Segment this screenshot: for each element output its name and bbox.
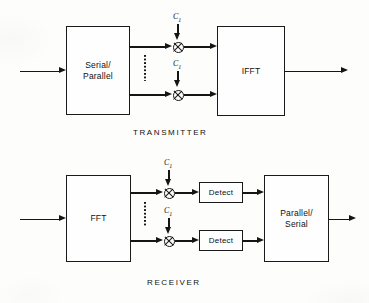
block-ifft[interactable]: IFFT [217,26,285,116]
block-fft-label: FFT [90,213,106,224]
tx-bottom-coefficient-arrow [174,80,180,87]
rx-bottom-branch-wire [131,240,158,241]
tx-bottom-multiplier[interactable] [173,90,184,101]
block-detect-top[interactable]: Detect [199,182,243,203]
tx-bottom-branch-wire [130,94,166,95]
tx-top-coefficient-label: C1 [173,12,181,23]
rx-bottom-multiplier[interactable] [164,236,175,247]
rx-top-branch-arrow [156,189,163,195]
tx-top-branch-wire [130,46,166,47]
block-detect-bottom[interactable]: Detect [199,230,243,251]
tx-top-to-ifft-arrow [210,43,217,49]
tx-top-to-ifft-wire [184,46,212,47]
tx-bottom-coefficient-label: C1 [173,59,181,70]
rx-top-branch-wire [131,192,158,193]
rx-top-multiplier[interactable] [164,188,175,199]
rx-input-wire [20,219,60,220]
tx-branch-ellipsis [144,55,146,81]
rx-bottom-coefficient-arrow [165,227,171,234]
rx-input-arrow [59,215,66,221]
block-detect-bottom-label: Detect [209,236,233,246]
receiver-section-label: RECEIVER [147,278,201,287]
rx-bottom-branch-arrow [156,237,163,243]
rx-output-arrow [349,215,356,221]
rx-top-detect-to-ps-arrow [257,189,264,195]
block-fft[interactable]: FFT [66,175,131,262]
block-parallel-serial[interactable]: Parallel/ Serial [264,175,329,262]
tx-bottom-to-ifft-arrow [210,91,217,97]
rx-bottom-coefficient-sub: 1 [169,211,172,217]
tx-bottom-branch-arrow [165,91,172,97]
tx-top-branch-arrow [165,43,172,49]
tx-input-wire [20,71,60,72]
tx-output-arrow [341,67,348,73]
tx-bottom-coefficient-sub: 1 [178,64,181,70]
block-serial-parallel[interactable]: Serial/ Parallel [66,26,130,115]
block-ifft-label: IFFT [242,66,261,77]
transmitter-section-label: TRANSMITTER [133,128,208,137]
tx-output-wire [285,71,343,72]
tx-bottom-to-ifft-wire [184,94,212,95]
block-serial-parallel-label: Serial/ Parallel [83,60,113,81]
rx-output-wire [329,219,351,220]
rx-bottom-to-detect-arrow [192,237,199,243]
rx-top-coefficient-label: C1 [164,158,172,169]
block-detect-top-label: Detect [209,188,233,198]
rx-top-coefficient-arrow [165,179,171,186]
rx-branch-ellipsis [144,202,146,226]
block-parallel-serial-label: Parallel/ Serial [280,208,313,229]
tx-input-arrow [59,67,66,73]
figure-canvas: Serial/ Parallel C1 C1 IFFT TRANSMITTER [0,0,369,303]
rx-top-to-detect-arrow [192,189,199,195]
tx-top-coefficient-arrow [174,33,180,40]
tx-top-multiplier[interactable] [173,42,184,53]
rx-top-coefficient-sub: 1 [169,163,172,169]
rx-bottom-coefficient-label: C1 [164,206,172,217]
rx-bottom-detect-to-ps-arrow [257,237,264,243]
tx-top-coefficient-sub: 1 [178,17,181,23]
